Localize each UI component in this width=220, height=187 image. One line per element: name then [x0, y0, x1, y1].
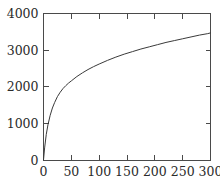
x-axis-tick-labels: 050100150200250300	[40, 164, 220, 179]
y-tick-label: 2000	[7, 79, 39, 94]
y-axis-tick-labels: 01000200030004000	[7, 6, 39, 168]
data-series-group	[44, 33, 211, 160]
y-tick-label: 0	[31, 153, 39, 168]
x-tick-label: 200	[143, 164, 167, 179]
y-tick-label: 3000	[7, 43, 39, 58]
x-tick-label: 50	[63, 164, 79, 179]
y-axis-ticks	[44, 14, 211, 161]
x-axis-ticks	[44, 14, 211, 161]
x-tick-label: 100	[87, 164, 111, 179]
plot-frame	[44, 14, 211, 161]
y-tick-label: 4000	[7, 6, 39, 21]
y-tick-label: 1000	[7, 116, 39, 131]
plot-area: 01000200030004000 050100150200250300	[0, 0, 220, 187]
chart-figure: 01000200030004000 050100150200250300	[0, 0, 220, 187]
x-tick-label: 250	[171, 164, 195, 179]
x-tick-label: 0	[40, 164, 48, 179]
x-tick-label: 150	[115, 164, 139, 179]
data-curve	[44, 33, 211, 160]
x-tick-label: 300	[199, 164, 220, 179]
